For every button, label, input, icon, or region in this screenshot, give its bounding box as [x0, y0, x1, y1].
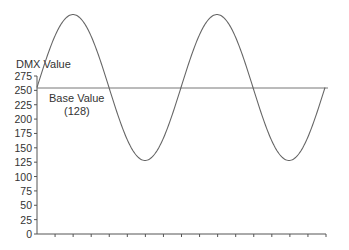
y-tick-label: 275: [14, 70, 32, 82]
y-tick-label: 225: [14, 99, 32, 111]
y-tick-label: 125: [14, 156, 32, 168]
y-tick-label: 75: [20, 185, 32, 197]
y-tick-label: 250: [14, 84, 32, 96]
base-value-label: Base Value: [49, 92, 104, 104]
y-tick-label: 100: [14, 171, 32, 183]
y-tick-label: 200: [14, 113, 32, 125]
base-value-number: (128): [64, 105, 90, 117]
y-tick-label: 50: [20, 199, 32, 211]
y-tick-label: 0: [26, 228, 32, 240]
dmx-sine-chart: DMX Value 025507510012515017520022525027…: [0, 0, 349, 250]
y-tick-label: 150: [14, 142, 32, 154]
y-tick-label: 25: [20, 214, 32, 226]
y-tick-labels: 0255075100125150175200225250275: [14, 70, 32, 240]
sine-wave-curve: [37, 15, 325, 161]
y-tick-label: 175: [14, 127, 32, 139]
